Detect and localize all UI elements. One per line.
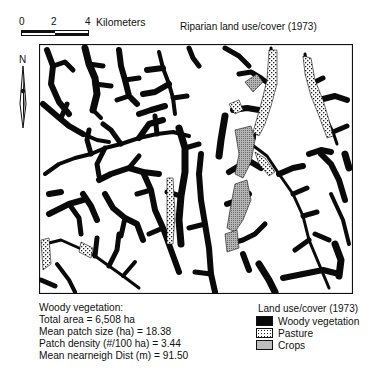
legend-label-woody: Woody vegetation	[278, 316, 359, 327]
legend-label-pasture: Pasture	[278, 328, 313, 339]
scale-tick-0: 0	[19, 17, 25, 27]
scale-bar	[21, 30, 89, 36]
legend-item-pasture: Pasture	[256, 327, 313, 339]
legend-item-woody-vegetation: Woody vegetation	[256, 315, 359, 327]
stats-mean-nearneigh-dist: Mean nearneigh Dist (m) = 91.50	[39, 350, 188, 362]
riparian-map	[39, 44, 353, 294]
stats-patch-density: Patch density (#/100 ha) = 3.44	[39, 338, 181, 350]
legend-swatch-woody-icon	[256, 316, 273, 326]
legend-label-crops: Crops	[278, 340, 305, 351]
north-arrow-icon	[15, 64, 31, 130]
stats-total-area: Total area = 6,508 ha	[39, 314, 135, 326]
legend-swatch-crops-icon	[256, 340, 273, 350]
scale-unit: Kilometers	[96, 17, 146, 27]
stats-heading: Woody vegetation:	[39, 302, 123, 314]
legend-title: Land use/cover (1973)	[258, 303, 358, 314]
scale-bar-segment-black-left	[22, 31, 55, 33]
scale-bar-segment-black-right	[55, 33, 89, 35]
map-title: Riparian land use/cover (1973)	[180, 21, 317, 32]
scale-tick-4: 4	[85, 17, 91, 27]
legend-swatch-pasture-icon	[256, 328, 273, 338]
scale-tick-2: 2	[51, 17, 57, 27]
legend-item-crops: Crops	[256, 339, 305, 351]
stats-mean-patch-size: Mean patch size (ha) = 18.38	[39, 326, 171, 338]
